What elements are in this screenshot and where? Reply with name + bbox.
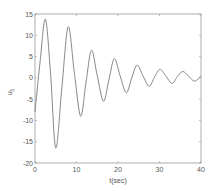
y-tick-label: 10 — [25, 32, 33, 39]
x-tick-label: 40 — [197, 166, 205, 173]
svg-text:u1: u1 — [6, 88, 15, 95]
line-chart: -20-15-10-5051015 010203040 t(sec) u1 — [0, 0, 213, 191]
plot-area — [35, 14, 201, 163]
x-tick-label: 20 — [114, 166, 122, 173]
x-tick-label: 0 — [33, 166, 37, 173]
x-tick-label: 10 — [73, 166, 81, 173]
axes-box — [35, 14, 201, 163]
y-tick-label: -20 — [23, 160, 33, 167]
series-line — [35, 19, 201, 148]
x-tick-label: 30 — [156, 166, 164, 173]
y-tick-label: -10 — [23, 117, 33, 124]
y-tick-label: 5 — [29, 53, 33, 60]
y-axis-label: u1 — [6, 88, 15, 95]
y-axis-label-sub: 1 — [9, 88, 15, 91]
x-axis-ticks: 010203040 — [33, 14, 205, 173]
y-tick-label: -15 — [23, 138, 33, 145]
y-tick-label: -5 — [27, 96, 33, 103]
y-axis-ticks: -20-15-10-5051015 — [23, 11, 201, 167]
x-axis-label: t(sec) — [109, 177, 127, 185]
y-tick-label: 0 — [29, 74, 33, 81]
y-tick-label: 15 — [25, 11, 33, 18]
